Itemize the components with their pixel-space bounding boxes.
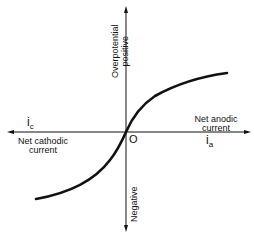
anodic-current-label: current (186, 124, 246, 133)
anodic-current-symbol: ia (206, 136, 213, 149)
net-anodic-current-label: Net anodic current (186, 115, 246, 133)
overpotential-label: Overpotential (110, 24, 120, 78)
positive-label: positive (120, 24, 130, 78)
origin-label: O (129, 134, 138, 145)
cathodic-current-label: current (14, 146, 72, 155)
negative-label-text: Negative (129, 186, 139, 222)
anodic-subscript: a (209, 140, 213, 149)
net-cathodic-current-label: Net cathodic current (14, 137, 72, 155)
overpotential-positive-label: Overpotential positive (110, 24, 130, 78)
arrow-up-icon (124, 6, 128, 13)
cathodic-current-symbol: ic (27, 118, 34, 131)
negative-label: Negative (129, 186, 139, 222)
origin-label-text: O (129, 133, 138, 145)
arrow-down-icon (124, 225, 128, 232)
cathodic-subscript: c (30, 122, 34, 131)
arrow-left-icon (7, 130, 14, 134)
